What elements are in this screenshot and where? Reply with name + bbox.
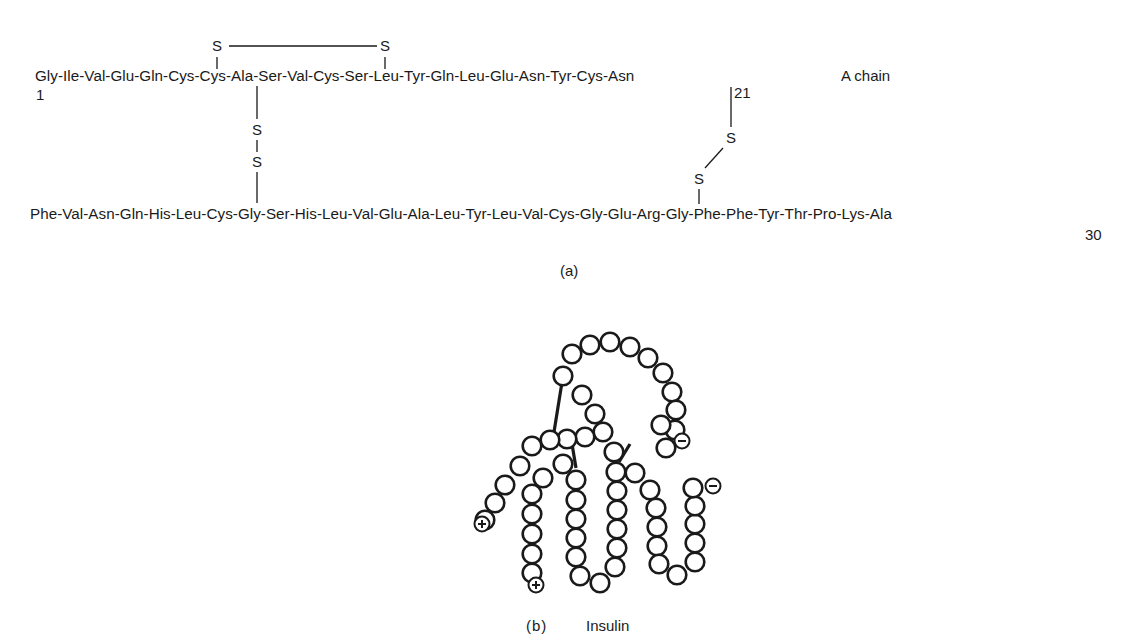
residue-bead (567, 471, 586, 490)
residue-bead (663, 383, 682, 402)
residue-bead (567, 529, 586, 548)
residue-bead (541, 431, 560, 450)
residue-bead (647, 499, 666, 518)
residue-bead (686, 534, 705, 553)
residue-bead (606, 558, 625, 577)
residue-bead (594, 423, 613, 442)
residue-bead (608, 501, 627, 520)
residue-bead (668, 566, 687, 585)
residue-bead (686, 497, 705, 516)
negative-charge-icon (675, 434, 690, 449)
negative-charge-icon (706, 479, 721, 494)
residue-bead (573, 386, 592, 405)
residue-bead (608, 482, 627, 501)
residue-bead (641, 481, 660, 500)
residue-bead (523, 485, 542, 504)
panel-b-title: Insulin (586, 617, 629, 634)
residue-bead (591, 574, 610, 593)
residue-bead (684, 479, 703, 498)
panel-b-label: (b) (526, 617, 547, 634)
residue-bead (567, 548, 586, 567)
residue-bead (496, 476, 515, 495)
residue-bead (686, 515, 705, 534)
residue-bead (607, 463, 626, 482)
residue-bead (654, 364, 673, 383)
residue-bead (523, 545, 542, 564)
residue-bead (605, 443, 624, 462)
residue-bead (554, 455, 573, 474)
residue-bead (657, 439, 676, 458)
residue-bead (523, 437, 542, 456)
residue-bead (648, 518, 667, 537)
residue-bead (601, 333, 620, 352)
residue-bead (511, 457, 530, 476)
residue-bead (639, 349, 658, 368)
residue-bead (486, 494, 505, 513)
residue-bead (586, 405, 605, 424)
residue-bead (571, 567, 590, 586)
residue-bead (563, 345, 582, 364)
residue-bead (626, 464, 645, 483)
residue-bead (621, 338, 640, 357)
residue-bead (650, 555, 669, 574)
residue-bead (523, 525, 542, 544)
positive-charge-icon (475, 517, 490, 532)
residue-bead (567, 491, 586, 510)
residue-bead (648, 537, 667, 556)
residue-beads (476, 333, 705, 593)
residue-bead (686, 553, 705, 572)
residue-bead (652, 416, 671, 435)
residue-bead (554, 367, 573, 386)
residue-bead (608, 520, 627, 539)
residue-bead (576, 428, 595, 447)
positive-charge-icon (529, 578, 544, 593)
residue-bead (581, 336, 600, 355)
residue-bead (523, 505, 542, 524)
residue-bead (567, 510, 586, 529)
residue-bead (667, 401, 686, 420)
insulin-bead-model (0, 0, 1141, 642)
residue-bead (608, 539, 627, 558)
